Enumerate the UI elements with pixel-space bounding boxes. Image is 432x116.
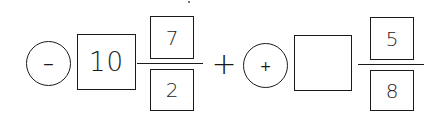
term2-denominator-box[interactable]: 8: [370, 70, 414, 111]
plus-operator: +: [211, 49, 237, 79]
term2-whole-box[interactable]: [294, 35, 352, 91]
term1-denominator-value: 2: [166, 80, 179, 100]
term1-numerator-value: 7: [166, 28, 179, 48]
term1-denominator-box[interactable]: 2: [150, 69, 194, 111]
term2-denominator-value: 8: [386, 81, 399, 101]
term2-fraction-bar: [358, 64, 424, 65]
term1-numerator-box[interactable]: 7: [150, 16, 194, 59]
term1-fraction-bar: [137, 63, 203, 64]
term1-whole-value: 10: [89, 49, 124, 75]
term2-sign-circle[interactable]: +: [243, 43, 288, 88]
term1-whole-box[interactable]: 10: [77, 34, 136, 90]
stray-mark: [188, 1, 190, 3]
minus-sign: −: [43, 57, 55, 71]
term2-numerator-box[interactable]: 5: [370, 17, 414, 60]
plus-sign: +: [260, 59, 272, 73]
term2-numerator-value: 5: [386, 29, 399, 49]
term1-sign-circle[interactable]: −: [26, 41, 71, 86]
